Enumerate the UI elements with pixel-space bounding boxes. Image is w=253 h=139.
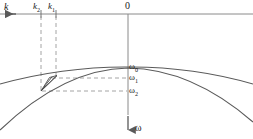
label-omega2: ω2 bbox=[129, 86, 138, 97]
label-k1: k1 bbox=[48, 2, 55, 13]
curve-lower-branch bbox=[0, 68, 253, 130]
label-k2: k2 bbox=[33, 2, 40, 13]
wedge-edge-inner bbox=[41, 77, 52, 91]
diagram-canvas bbox=[0, 0, 253, 139]
label-origin: 0 bbox=[125, 1, 130, 11]
label-omega1: ω1 bbox=[129, 73, 138, 84]
label-omega-axis: ω bbox=[135, 123, 142, 133]
curve-upper-branch bbox=[0, 67, 253, 84]
dispersion-diagram: k k2 k1 0 ω0 ω1 ω2 ω bbox=[0, 0, 253, 139]
label-omega1-subscript: 1 bbox=[135, 78, 138, 84]
label-k2-subscript: 2 bbox=[37, 7, 40, 13]
label-k1-subscript: 1 bbox=[52, 7, 55, 13]
label-omega0-subscript: 0 bbox=[135, 67, 138, 73]
label-omega2-subscript: 2 bbox=[135, 91, 138, 97]
label-k-axis: k bbox=[4, 2, 8, 12]
